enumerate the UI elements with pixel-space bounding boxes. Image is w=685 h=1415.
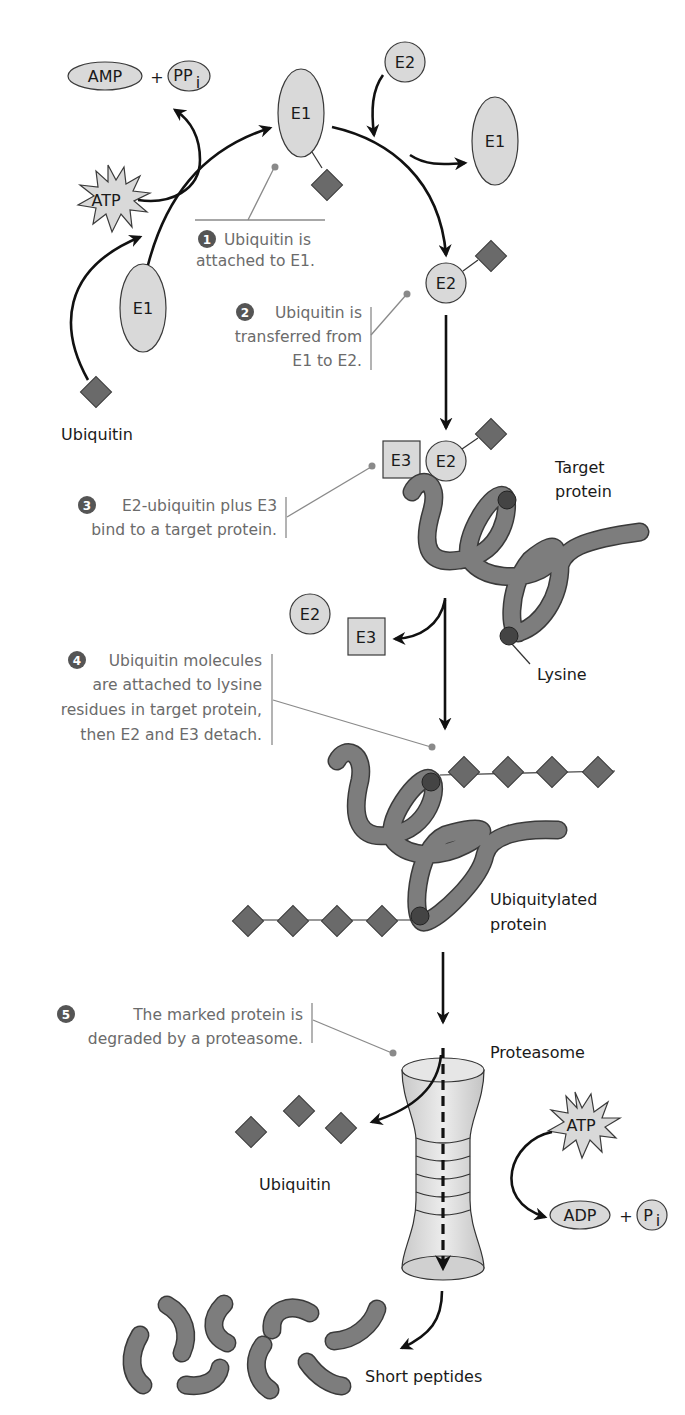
step-5-line-2: degraded by a proteasome.	[88, 1030, 303, 1048]
target-protein-label-2: protein	[555, 482, 612, 501]
svg-text:1: 1	[203, 233, 211, 247]
svg-text:E3: E3	[356, 628, 376, 647]
adp-pi-products: ADP + P i	[550, 1200, 667, 1230]
e1-release-arrow	[410, 155, 465, 164]
svg-text:E1: E1	[291, 104, 311, 123]
step-2-line-3: E1 to E2.	[292, 352, 362, 370]
atp-to-amp-arrow	[138, 110, 200, 201]
e2-released-node: E2	[290, 594, 330, 634]
ppi-subscript: i	[196, 73, 200, 92]
ubiquitylated-label-2: protein	[490, 915, 547, 934]
step-2-line-2: transferred from	[235, 328, 362, 346]
atp-starburst-top: ATP	[78, 165, 150, 232]
step-5-callout: 5 The marked protein is degraded by a pr…	[57, 1003, 397, 1057]
lysine-ubiquitylated-1	[422, 773, 440, 791]
pi-label: P	[643, 1206, 653, 1225]
e1-free-node: E1	[120, 264, 166, 352]
step-3-callout: 3 E2-ubiquitin plus E3 bind to a target …	[78, 463, 376, 540]
lysine-site-2	[500, 627, 518, 645]
step-4-line-4: then E2 and E3 detach.	[80, 726, 262, 744]
ubiquitin-start: Ubiquitin	[61, 376, 133, 444]
step-1-line-2: attached to E1.	[196, 252, 315, 270]
e2-incoming-arrow	[373, 75, 383, 135]
lysine-label: Lysine	[537, 665, 587, 684]
step-4-line-1: Ubiquitin molecules	[109, 652, 262, 670]
ubiquitylated-protein: Ubiquitylated protein	[232, 753, 615, 937]
svg-text:E1: E1	[133, 299, 153, 318]
lysine-ubiquitylated-2	[411, 907, 429, 925]
svg-text:E1: E1	[485, 132, 505, 151]
step-2-callout: 2 Ubiquitin is transferred from E1 to E2…	[235, 291, 411, 371]
e1-ubiquitin-node: E1	[278, 69, 343, 201]
e3-released-node: E3	[348, 618, 385, 655]
amp-label: AMP	[88, 67, 123, 86]
lysine-site-1	[498, 491, 516, 509]
step-1-line-1: Ubiquitin is	[224, 231, 311, 249]
polyubiquitin-chain-upper	[448, 756, 613, 787]
e2-e3-detach-arrow	[395, 600, 445, 639]
ubiquitylated-label-1: Ubiquitylated	[490, 890, 597, 909]
short-peptides: Short peptides	[132, 1304, 482, 1390]
plus-sign-bottom: +	[619, 1207, 632, 1226]
step-3-line-1: E2-ubiquitin plus E3	[122, 497, 277, 515]
e1-to-e2-transfer-arrow	[332, 127, 446, 255]
ubiquitin-start-label: Ubiquitin	[61, 425, 133, 444]
proteasome-label: Proteasome	[490, 1043, 585, 1062]
step-4-line-2: are attached to lysine	[92, 676, 262, 694]
ubiquitin-released-label: Ubiquitin	[259, 1175, 331, 1194]
step-4-callout: 4 Ubiquitin molecules are attached to ly…	[61, 651, 436, 751]
atp-label-top: ATP	[91, 191, 120, 210]
svg-text:ATP: ATP	[566, 1116, 595, 1135]
e1-released-node: E1	[472, 97, 518, 185]
ubiquitin-pathway-diagram: AMP + PP i ATP E1 Ubiquitin E1 E2	[0, 0, 685, 1415]
amp-ppi-products: AMP + PP i	[68, 61, 210, 92]
e2-complex-label: E2	[436, 452, 456, 471]
svg-text:E2: E2	[436, 274, 456, 293]
ppi-label: PP	[173, 66, 193, 85]
svg-text:2: 2	[241, 306, 249, 320]
svg-text:E2: E2	[300, 605, 320, 624]
e2-ubiquitin-node: E2	[426, 240, 507, 303]
svg-text:5: 5	[62, 1008, 70, 1022]
e2-incoming-node: E2	[385, 42, 425, 82]
step-2-line-1: Ubiquitin is	[275, 304, 362, 322]
svg-text:3: 3	[83, 499, 91, 513]
released-ubiquitin: Ubiquitin	[235, 1095, 356, 1194]
atp-hydrolysis-arrow	[511, 1132, 552, 1217]
step-1-callout: 1 Ubiquitin is attached to E1.	[195, 164, 325, 271]
svg-text:E2: E2	[395, 53, 415, 72]
target-protein-label-1: Target	[554, 458, 605, 477]
pi-subscript: i	[656, 1211, 660, 1230]
adp-label: ADP	[564, 1206, 597, 1225]
e3-complex-label: E3	[391, 451, 411, 470]
plus-sign: +	[150, 68, 163, 87]
step-5-line-1: The marked protein is	[132, 1006, 303, 1024]
svg-text:4: 4	[73, 654, 81, 668]
atp-starburst-bottom: ATP	[548, 1092, 620, 1158]
step-3-line-2: bind to a target protein.	[91, 521, 277, 539]
step-4-line-3: residues in target protein,	[61, 701, 262, 719]
polyubiquitin-chain-lower	[232, 905, 397, 936]
to-peptides-arrow	[402, 1291, 442, 1348]
short-peptides-label: Short peptides	[365, 1367, 482, 1386]
